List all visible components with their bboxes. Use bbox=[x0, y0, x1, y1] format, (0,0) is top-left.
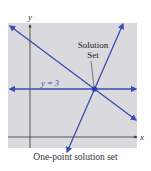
solution-graph: x y y = 3 Solution Set bbox=[0, 0, 151, 171]
plot-background bbox=[8, 23, 137, 148]
solution-set-label-line2: Set bbox=[87, 50, 99, 60]
x-axis-label: x bbox=[139, 132, 144, 142]
y-equals-3-label: y = 3 bbox=[40, 78, 59, 88]
solution-set-label-line1: Solution bbox=[78, 40, 109, 50]
intersection-point bbox=[92, 86, 97, 91]
figure-caption: One-point solution set bbox=[0, 152, 151, 162]
y-axis-label: y bbox=[27, 12, 32, 22]
